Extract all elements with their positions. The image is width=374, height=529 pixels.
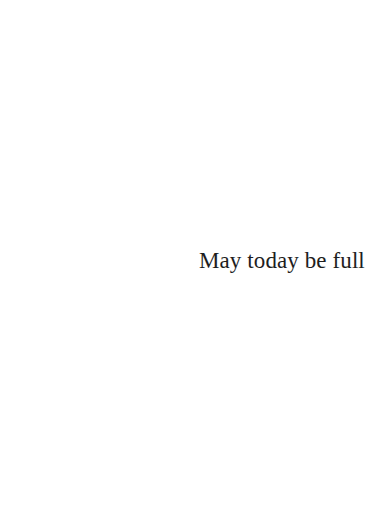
- page-text: May today be full: [199, 247, 365, 275]
- document-page: May today be full: [0, 0, 374, 529]
